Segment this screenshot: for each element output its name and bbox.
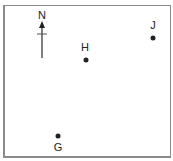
north-arrow-icon [0, 0, 173, 161]
point-label-h: H [81, 42, 89, 53]
point-g [56, 134, 61, 139]
point-label-j: J [150, 20, 156, 31]
point-label-g: G [54, 142, 63, 153]
point-h [84, 58, 89, 63]
point-j [151, 36, 156, 41]
